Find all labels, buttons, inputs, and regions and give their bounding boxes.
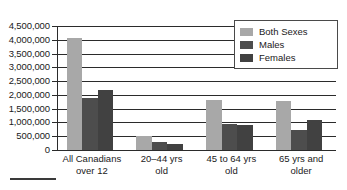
legend-label-males: Males [259,40,284,50]
gridline [57,150,336,151]
y-axis-tick-label: 500,000 [16,131,50,141]
y-axis-tick-label: 4,500,000 [9,21,50,31]
legend-swatch-icon-both-sexes [240,28,253,36]
y-axis-tick-label: 4,000,000 [9,35,50,45]
y-axis-tick-label: 0 [45,145,50,155]
legend-label-females: Females [259,53,295,63]
bar[interactable] [67,38,83,150]
y-axis-tick-label: 1,500,000 [9,104,50,114]
legend-swatch-icon-males [240,41,253,49]
x-axis-category-label-line: older [260,165,342,177]
legend-item-both-sexes[interactable]: Both Sexes [240,25,332,38]
x-axis-category-label-line: 65 yrs and [260,153,342,165]
bar[interactable] [82,98,98,150]
bar[interactable] [237,125,253,150]
bar-chart-figure: 4,500,0004,000,0003,500,0003,000,0002,50… [0,0,347,190]
chart-legend: Both Sexes Males Females [234,20,338,69]
x-axis-category-label: 65 yrs andolder [260,153,342,176]
y-axis-tick-label: 2,000,000 [9,90,50,100]
y-axis-tick-label: 3,000,000 [9,62,50,72]
legend-swatch-icon-females [240,54,253,62]
bar[interactable] [98,90,114,150]
bar[interactable] [222,124,238,150]
y-axis-tick-label: 3,500,000 [9,49,50,59]
legend-item-males[interactable]: Males [240,38,332,51]
y-axis-tick-label: 2,500,000 [9,76,50,86]
bar[interactable] [276,101,292,150]
footer-rule [10,178,56,180]
bar[interactable] [167,144,183,150]
bar[interactable] [136,136,152,150]
bar-group [136,26,183,150]
bar[interactable] [152,142,168,150]
bar[interactable] [307,120,323,150]
bar-group [67,26,114,150]
bar[interactable] [291,130,307,150]
bar[interactable] [206,100,222,150]
legend-item-females[interactable]: Females [240,51,332,64]
y-axis-tick-label: 1,000,000 [9,117,50,127]
legend-label-both-sexes: Both Sexes [259,27,308,37]
